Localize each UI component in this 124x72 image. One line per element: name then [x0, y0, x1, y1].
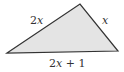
label-base: 2x + 1 — [49, 57, 85, 70]
label-right-side: x — [102, 14, 109, 27]
label-left-side: 2x — [30, 14, 44, 27]
triangle-shape — [7, 4, 118, 53]
triangle-diagram: 2x x 2x + 1 — [0, 0, 124, 72]
